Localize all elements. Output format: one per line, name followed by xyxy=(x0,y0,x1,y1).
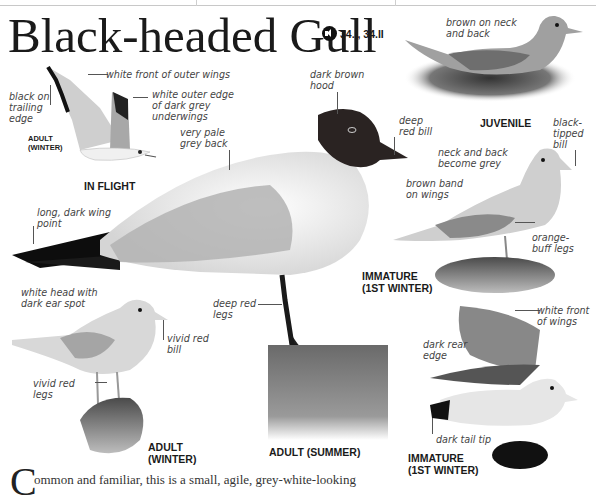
leader-line xyxy=(33,226,34,244)
leader-line xyxy=(575,150,576,166)
caption-in-flight-adult-winter: ADULT (WINTER) xyxy=(28,134,63,152)
leader-line xyxy=(95,382,107,383)
label-black-tipped-bill: black- tipped bill xyxy=(553,117,584,150)
leader-line xyxy=(258,304,282,305)
caption-immature-flying: IMMATURE (1ST WINTER) xyxy=(408,452,479,476)
label-dark-rear-edge: dark rear edge xyxy=(423,339,467,361)
leader-line xyxy=(515,222,535,223)
label-black-trailing-edge: black on trailing edge xyxy=(9,91,49,124)
label-very-pale-grey-back: very pale grey back xyxy=(180,127,227,149)
label-white-head-ear-spot: white head with dark ear spot xyxy=(21,287,98,309)
label-deep-red-legs: deep red legs xyxy=(213,298,256,320)
leader-line xyxy=(337,92,338,114)
in-flight-gull-illustration xyxy=(48,67,156,160)
label-long-dark-wing-point: long, dark wing point xyxy=(37,207,111,229)
body-drop-cap: C xyxy=(10,462,37,499)
label-deep-red-bill: deep red bill xyxy=(399,115,432,137)
label-orange-buff-legs: orange- buff legs xyxy=(532,232,574,254)
caption-in-flight: IN FLIGHT xyxy=(84,180,135,192)
caption-juvenile: JUVENILE xyxy=(480,117,531,129)
label-white-outer-edge-underwings: white outer edge of dark grey underwings xyxy=(152,89,234,122)
label-dark-brown-hood: dark brown hood xyxy=(310,69,364,91)
label-dark-tail-tip: dark tail tip xyxy=(436,434,491,445)
body-text: ommon and familiar, this is a small, agi… xyxy=(34,472,356,488)
label-neck-back-grey: neck and back become grey xyxy=(438,147,508,169)
leader-line xyxy=(163,320,164,340)
label-brown-band-wings: brown band on wings xyxy=(406,178,463,200)
leader-line xyxy=(229,150,230,170)
label-vivid-red-bill: vivid red bill xyxy=(167,333,209,355)
caption-immature-standing: IMMATURE (1ST WINTER) xyxy=(362,270,433,294)
leader-line xyxy=(133,97,148,98)
label-white-front-wings: white front of wings xyxy=(537,305,589,327)
adult-winter-gull-illustration xyxy=(12,300,168,454)
label-brown-neck-back: brown on neck and back xyxy=(446,17,517,39)
leader-line xyxy=(88,74,108,75)
caption-adult-summer: ADULT (SUMMER) xyxy=(269,446,360,458)
label-white-front-outer-wings: white front of outer wings xyxy=(106,69,230,80)
leader-line xyxy=(432,418,433,434)
leader-line xyxy=(50,85,51,105)
leader-line xyxy=(394,137,395,155)
caption-adult-winter: ADULT (WINTER) xyxy=(148,441,196,465)
label-vivid-red-legs: vivid red legs xyxy=(33,378,75,400)
